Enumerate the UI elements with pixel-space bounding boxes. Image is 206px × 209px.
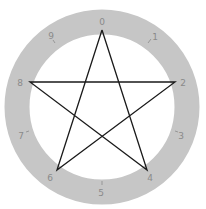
label-7: 7 [18,131,24,141]
label-3: 3 [178,131,184,141]
label-9: 9 [48,31,54,41]
label-0: 0 [99,17,105,27]
label-1: 1 [152,32,158,42]
label-8: 8 [17,78,23,88]
gray-ring [17,22,187,192]
label-2: 2 [180,78,186,88]
diagram-canvas: 0 1 2 3 4 5 6 7 8 9 [0,0,206,209]
label-5: 5 [98,188,104,198]
pentagram-ring-diagram: 0 1 2 3 4 5 6 7 8 9 [0,0,206,209]
label-6: 6 [47,173,53,183]
label-4: 4 [147,173,153,183]
